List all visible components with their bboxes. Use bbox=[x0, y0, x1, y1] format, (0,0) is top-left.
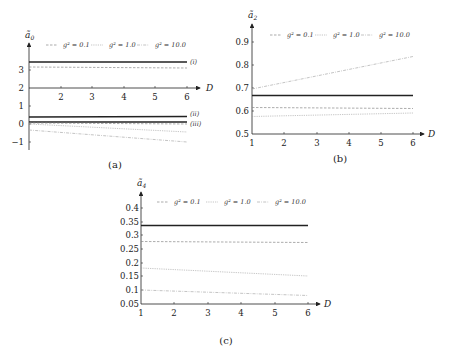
svg-text:0.05: 0.05 bbox=[120, 299, 139, 309]
svg-text:0.15: 0.15 bbox=[120, 271, 139, 281]
svg-text:0.5: 0.5 bbox=[235, 129, 249, 139]
svg-text:4: 4 bbox=[346, 138, 351, 148]
annotation-i: (i) bbox=[190, 58, 198, 66]
svg-text:g² = 0.1: g² = 0.1 bbox=[174, 198, 201, 206]
series-dotted bbox=[141, 268, 308, 276]
legend: g² = 0.1 g² = 1.0 g² = 10.0 bbox=[46, 41, 186, 49]
series-dotted bbox=[29, 124, 187, 132]
series-iii-dashed bbox=[29, 123, 187, 124]
y-ticks: 3 2 1 0 −1 bbox=[11, 65, 31, 147]
svg-text:2: 2 bbox=[58, 92, 63, 102]
svg-text:2: 2 bbox=[281, 138, 286, 148]
svg-text:1: 1 bbox=[138, 308, 143, 318]
svg-text:6: 6 bbox=[410, 138, 415, 148]
svg-text:g² = 10.0: g² = 10.0 bbox=[379, 31, 410, 39]
caption-c: (c) bbox=[219, 335, 233, 346]
svg-text:g² = 10.0: g² = 10.0 bbox=[275, 198, 306, 206]
svg-text:4: 4 bbox=[238, 308, 243, 318]
svg-text:6: 6 bbox=[184, 92, 189, 102]
svg-text:1: 1 bbox=[249, 138, 254, 148]
svg-text:g² = 1.0: g² = 1.0 bbox=[224, 198, 251, 206]
svg-text:g² = 1.0: g² = 1.0 bbox=[109, 41, 136, 49]
legend: g² = 0.1 g² = 1.0 g² = 10.0 bbox=[270, 31, 410, 39]
svg-text:0.6: 0.6 bbox=[235, 106, 249, 116]
svg-text:0.3: 0.3 bbox=[125, 230, 139, 240]
svg-text:g² = 1.0: g² = 1.0 bbox=[333, 31, 360, 39]
svg-text:2: 2 bbox=[171, 308, 176, 318]
svg-text:g² = 0.1: g² = 0.1 bbox=[287, 31, 314, 39]
panel-a: ã0 D 3 2 1 0 −1 2 3 4 5 6 bbox=[11, 30, 213, 170]
figure: ã0 D 3 2 1 0 −1 2 3 4 5 6 bbox=[0, 0, 451, 356]
legend: g² = 0.1 g² = 1.0 g² = 10.0 bbox=[157, 198, 306, 206]
x-axis-label: D bbox=[205, 83, 213, 93]
svg-text:4: 4 bbox=[121, 92, 126, 102]
series-dotted bbox=[252, 113, 413, 117]
y-axis-label: ã2 bbox=[248, 10, 257, 21]
svg-text:0.4: 0.4 bbox=[125, 203, 139, 213]
annotation-iii: (iii) bbox=[190, 120, 202, 128]
y-ticks: 0.4 0.35 0.3 0.25 0.2 0.15 0.1 0.05 bbox=[120, 203, 143, 309]
x-axis-label: D bbox=[323, 299, 331, 309]
svg-text:3: 3 bbox=[89, 92, 94, 102]
svg-text:5: 5 bbox=[152, 92, 157, 102]
svg-text:0.35: 0.35 bbox=[120, 217, 139, 227]
series-dashed bbox=[141, 242, 308, 243]
svg-text:3: 3 bbox=[314, 138, 319, 148]
svg-text:6: 6 bbox=[305, 308, 310, 318]
series-dashdot bbox=[29, 130, 187, 142]
svg-text:−1: −1 bbox=[11, 137, 24, 147]
svg-text:0.9: 0.9 bbox=[235, 37, 249, 47]
y-ticks: 0.9 0.8 0.7 0.6 0.5 bbox=[235, 37, 254, 139]
caption-b: (b) bbox=[333, 153, 347, 164]
series-ii-solid bbox=[29, 117, 187, 118]
y-axis-label: ã0 bbox=[25, 30, 34, 41]
svg-text:3: 3 bbox=[205, 308, 210, 318]
annotation-ii: (ii) bbox=[190, 110, 200, 118]
svg-text:g² = 10.0: g² = 10.0 bbox=[155, 41, 186, 49]
svg-text:3: 3 bbox=[19, 65, 24, 75]
series-dashed bbox=[252, 108, 413, 109]
svg-text:0.8: 0.8 bbox=[235, 60, 249, 70]
svg-text:0.25: 0.25 bbox=[120, 244, 139, 254]
svg-text:0.7: 0.7 bbox=[235, 83, 249, 93]
svg-text:g² = 0.1: g² = 0.1 bbox=[63, 41, 90, 49]
y-axis-label: ã4 bbox=[137, 178, 146, 189]
svg-text:0: 0 bbox=[19, 119, 24, 129]
panel-b: ã2 D 0.9 0.8 0.7 0.6 0.5 1 2 3 4 5 6 bbox=[235, 10, 435, 164]
caption-a: (a) bbox=[108, 159, 122, 170]
panel-c: ã4 D 0.4 0.35 0.3 0.25 0.2 0.15 0.1 0.05… bbox=[120, 178, 331, 346]
x-axis-label: D bbox=[427, 129, 435, 139]
svg-text:2: 2 bbox=[19, 83, 24, 93]
svg-text:0.1: 0.1 bbox=[125, 285, 139, 295]
svg-text:5: 5 bbox=[378, 138, 383, 148]
svg-text:5: 5 bbox=[272, 308, 277, 318]
series-i-dashed bbox=[29, 67, 187, 68]
series-dashdot bbox=[252, 57, 413, 90]
svg-text:1: 1 bbox=[19, 101, 24, 111]
svg-text:0.2: 0.2 bbox=[125, 258, 139, 268]
series-dashdot bbox=[141, 290, 308, 296]
